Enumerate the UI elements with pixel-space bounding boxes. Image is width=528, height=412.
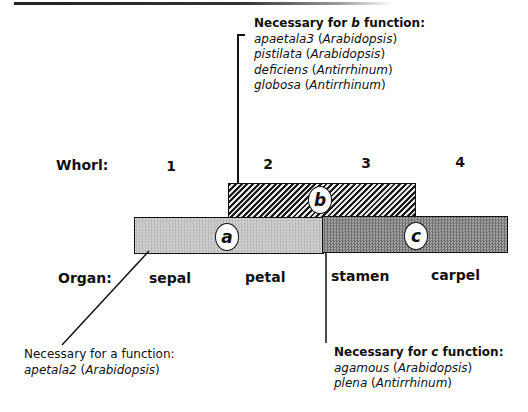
c-function-note: Necessary for c function: agamous (Arabi…	[334, 345, 503, 392]
a-gene-1: apetala2 (Arabidopsis)	[24, 363, 175, 379]
a-function-heading: Necessary for a function:	[24, 347, 175, 363]
c-gene-1: agamous (Arabidopsis)	[334, 361, 503, 377]
a-function-note: Necessary for a function: apetala2 (Arab…	[24, 347, 175, 378]
a-pointer-line	[62, 251, 149, 345]
c-function-heading: Necessary for c function:	[334, 345, 503, 361]
c-gene-2: plena (Antirrhinum)	[334, 376, 503, 392]
